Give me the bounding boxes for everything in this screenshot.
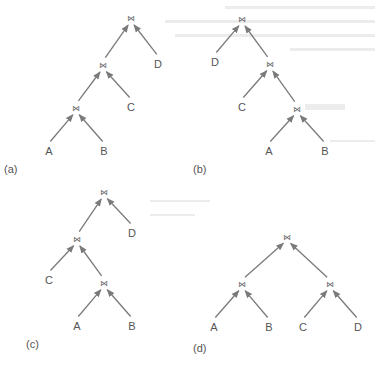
relation-label-c: C [299, 321, 307, 333]
join-tree-c: ⋈⋈DC⋈AB(c) [26, 188, 136, 350]
edge-arrow [134, 25, 157, 54]
edge-arrow [78, 290, 101, 317]
relation-label-c: C [238, 101, 246, 113]
trees-layer: ⋈⋈D⋈CAB(a)⋈D⋈C⋈AB(b)⋈⋈DC⋈AB(c)⋈⋈⋈ABCD(d) [4, 14, 362, 354]
subfigure-caption: (b) [193, 163, 206, 175]
edge-arrow [245, 243, 283, 277]
edge-arrow [243, 71, 266, 98]
edge-arrow [107, 199, 130, 224]
edge-arrow [304, 291, 327, 318]
relation-label-a: A [45, 145, 53, 157]
join-operator-icon: ⋈ [100, 279, 108, 288]
relation-label-c: C [127, 101, 135, 113]
edge-arrow [273, 71, 295, 102]
edge-arrow [79, 115, 102, 142]
bleed-through-texture [150, 6, 375, 216]
edge-arrow [291, 243, 327, 277]
relation-label-d: D [128, 227, 136, 239]
relation-label-c: C [45, 274, 53, 286]
edge-arrow [105, 25, 128, 58]
subfigure-caption: (a) [4, 163, 17, 175]
join-operator-icon: ⋈ [73, 235, 81, 244]
relation-label-a: A [265, 145, 273, 157]
edge-arrow [106, 72, 129, 98]
join-operator-icon: ⋈ [283, 233, 291, 242]
subfigure-caption: (d) [193, 342, 206, 354]
relation-label-d: D [154, 58, 162, 70]
edge-arrow [245, 26, 268, 57]
join-operator-icon: ⋈ [238, 280, 246, 289]
relation-label-b: B [100, 145, 107, 157]
edge-arrow [245, 291, 268, 318]
join-operator-icon: ⋈ [266, 60, 274, 69]
join-operator-icon: ⋈ [100, 188, 108, 197]
join-operator-icon: ⋈ [326, 280, 334, 289]
relation-label-d: D [211, 56, 219, 68]
edge-arrow [216, 26, 239, 53]
edge-arrow [80, 246, 102, 276]
join-operator-icon: ⋈ [127, 14, 135, 23]
relation-label-a: A [73, 320, 81, 332]
join-operator-icon: ⋈ [293, 105, 301, 114]
relation-label-b: B [321, 145, 328, 157]
edge-arrow [79, 199, 101, 232]
join-operator-icon: ⋈ [238, 15, 246, 24]
subfigure-caption: (c) [26, 338, 39, 350]
join-tree-b: ⋈D⋈C⋈AB(b) [193, 15, 329, 175]
relation-label-b: B [128, 320, 135, 332]
join-operator-icon: ⋈ [72, 104, 80, 113]
relation-label-a: A [210, 321, 218, 333]
edge-arrow [107, 290, 130, 317]
edge-arrow [300, 116, 323, 142]
join-tree-figure: ⋈⋈D⋈CAB(a)⋈D⋈C⋈AB(b)⋈⋈DC⋈AB(c)⋈⋈⋈ABCD(d) [0, 0, 381, 368]
join-operator-icon: ⋈ [99, 61, 107, 70]
edge-arrow [78, 72, 100, 101]
relation-label-d: D [354, 321, 362, 333]
edge-arrow [50, 115, 73, 142]
join-tree-d: ⋈⋈⋈ABCD(d) [193, 233, 362, 354]
edge-arrow [215, 291, 238, 318]
edge-arrow [50, 246, 73, 271]
edge-arrow [270, 116, 293, 142]
relation-label-b: B [265, 321, 272, 333]
join-tree-a: ⋈⋈D⋈CAB(a) [4, 14, 162, 175]
edge-arrow [333, 291, 356, 318]
